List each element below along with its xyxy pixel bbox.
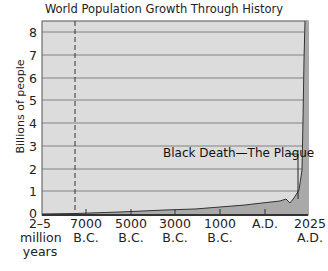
x-tick-label: A.D. bbox=[245, 217, 285, 231]
x-tick-label: 3000 B.C. bbox=[155, 217, 195, 245]
x-tick-label: 2025 A.D. bbox=[290, 217, 328, 245]
x-tick-label: 5000 B.C. bbox=[111, 217, 151, 245]
y-tick: 8 bbox=[25, 25, 37, 40]
y-tick: 6 bbox=[25, 71, 37, 86]
y-tick: 5 bbox=[25, 93, 37, 108]
y-tick: 1 bbox=[25, 184, 37, 199]
x-tick-label: 7000 B.C. bbox=[66, 217, 106, 245]
y-tick: 2 bbox=[25, 162, 37, 177]
black-death-annotation: Black Death—The Plague bbox=[163, 146, 314, 160]
y-tick: 4 bbox=[25, 116, 37, 131]
plot-area bbox=[42, 21, 308, 215]
y-tick: 3 bbox=[25, 139, 37, 154]
x-tick-label: 1000 B.C. bbox=[200, 217, 240, 245]
y-tick: 7 bbox=[25, 48, 37, 63]
x-tick-label: 2–5 million years bbox=[20, 217, 60, 259]
